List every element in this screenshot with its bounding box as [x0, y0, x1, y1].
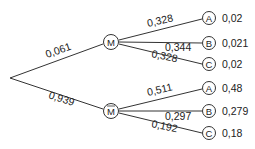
- leaf-M-C: C: [203, 58, 216, 71]
- svg-text:M: M: [107, 37, 115, 48]
- joint-M-A: 0,02: [222, 12, 243, 24]
- svg-text:A: A: [206, 13, 213, 24]
- node-M-bar: M: [104, 104, 119, 119]
- prob-M-A: 0,328: [146, 11, 174, 29]
- leaf-M-A: A: [203, 12, 216, 25]
- svg-text:M: M: [107, 106, 115, 117]
- leaf-Mbar-B: B: [203, 105, 216, 118]
- leaf-Mbar-C: C: [203, 127, 216, 140]
- svg-text:C: C: [206, 59, 213, 70]
- svg-text:B: B: [206, 38, 212, 49]
- svg-text:C: C: [206, 128, 213, 139]
- prob-Mbar-A: 0,511: [146, 80, 174, 97]
- leaf-Mbar-A: A: [203, 82, 216, 95]
- joint-M-B: 0,021: [222, 37, 248, 49]
- svg-text:B: B: [206, 106, 212, 117]
- leaf-M-B: B: [203, 37, 216, 50]
- joint-Mbar-B: 0,279: [222, 105, 248, 117]
- prob-root-Mbar: 0,939: [47, 88, 76, 108]
- joint-Mbar-C: 0,18: [222, 127, 243, 139]
- joint-Mbar-A: 0,48: [222, 82, 243, 94]
- node-M: M: [104, 35, 119, 50]
- svg-text:A: A: [206, 83, 213, 94]
- joint-M-C: 0,02: [222, 58, 243, 70]
- probability-tree: 0,061 0,939 0,328 0,344 0,328 0,511 0,29…: [0, 0, 255, 149]
